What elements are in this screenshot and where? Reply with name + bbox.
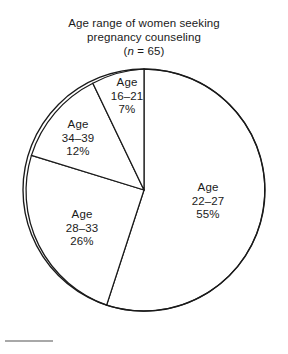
pie-label-16-21-line-1: Age	[82, 76, 172, 90]
pie-chart-plot-area: Age 16–21 7% Age 34–39 12% Age 28–33 26%…	[0, 0, 288, 354]
pie-label-28-33-line-2: 28–33	[37, 222, 127, 236]
page-edge-artifact-rule	[5, 340, 53, 342]
pie-chart-figure: Age range of women seeking pregnancy cou…	[0, 0, 288, 354]
pie-label-34-39-line-1: Age	[33, 118, 123, 132]
pie-label-16-21: Age 16–21 7%	[82, 76, 172, 117]
pie-label-28-33-line-3: 26%	[37, 235, 127, 249]
pie-label-22-27-line-2: 22–27	[163, 195, 253, 209]
pie-label-22-27-line-3: 55%	[163, 208, 253, 222]
pie-label-16-21-line-2: 16–21	[82, 90, 172, 104]
pie-label-34-39: Age 34–39 12%	[33, 118, 123, 159]
pie-label-28-33-line-1: Age	[37, 208, 127, 222]
pie-label-28-33: Age 28–33 26%	[37, 208, 127, 249]
pie-label-34-39-line-3: 12%	[33, 145, 123, 159]
pie-label-22-27: Age 22–27 55%	[163, 181, 253, 222]
pie-label-34-39-line-2: 34–39	[33, 132, 123, 146]
pie-label-16-21-line-3: 7%	[82, 103, 172, 117]
pie-chart-svg	[0, 0, 288, 354]
pie-label-22-27-line-1: Age	[163, 181, 253, 195]
